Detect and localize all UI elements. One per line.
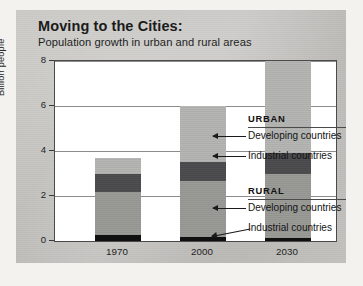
- rural-industrial-label: Industrial countries: [248, 222, 332, 233]
- urban-industrial-label: Industrial countries: [248, 150, 332, 161]
- y-tick-label: 6: [24, 99, 46, 110]
- bar-1970: [95, 158, 141, 241]
- bar-segment: [180, 162, 226, 181]
- urban-developing-label: Developing countries: [248, 130, 341, 141]
- urban-developing-arrow: [213, 136, 246, 137]
- x-tick-label: 2000: [172, 246, 232, 257]
- bar-segment: [95, 235, 141, 241]
- bar-segment: [180, 237, 226, 242]
- rural-group-label: RURAL: [248, 185, 284, 196]
- bar-2000: [180, 106, 226, 241]
- x-tick-label: 1970: [87, 246, 147, 257]
- chart-subtitle: Population growth in urban and rural are…: [38, 36, 252, 48]
- rural-developing-arrow: [213, 208, 246, 209]
- urban-group-label: URBAN: [248, 113, 285, 124]
- y-tick-label: 2: [24, 189, 46, 200]
- chart-figure: Moving to the Cities: Population growth …: [0, 0, 363, 286]
- bar-segment: [95, 174, 141, 192]
- bar-segment: [95, 192, 141, 236]
- y-tick-label: 4: [24, 144, 46, 155]
- chart-title: Moving to the Cities:: [38, 18, 183, 34]
- bar-segment: [95, 158, 141, 174]
- rural-developing-label: Developing countries: [248, 202, 341, 213]
- y-tick-label: 0: [24, 234, 46, 245]
- urban-industrial-arrow: [213, 156, 246, 157]
- y-tick-label: 8: [24, 54, 46, 65]
- bar-segment: [180, 106, 226, 162]
- urban-group-rule: [248, 127, 346, 128]
- x-tick-label: 2030: [257, 246, 317, 257]
- bar-segment: [265, 238, 311, 241]
- y-axis-label: Billion people: [0, 39, 6, 96]
- rural-group-rule: [248, 199, 346, 200]
